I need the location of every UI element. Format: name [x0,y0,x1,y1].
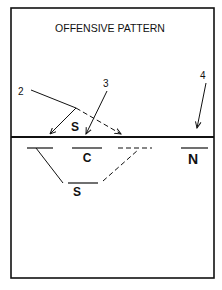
player-setter-bottom: S [73,186,81,198]
route-4-arrow [197,83,206,128]
player-setter-top: S [71,121,79,133]
player-n: N [188,152,198,166]
route-2-arrow-dashed [76,108,121,134]
court-border [11,8,214,278]
diagram-drawing [0,0,222,290]
callout-3: 3 [103,79,109,89]
diagram-title: OFFENSIVE PATTERN [55,23,165,34]
player-center: C [83,152,92,164]
callout-4: 4 [200,71,206,81]
setter-path-solid [36,148,63,183]
offensive-pattern-diagram: OFFENSIVE PATTERN 2 3 4 S C S N [0,0,222,290]
route-3-arrow [86,91,107,134]
route-2-line [31,90,76,108]
callout-2: 2 [18,87,24,97]
setter-path-dashed [103,150,138,181]
